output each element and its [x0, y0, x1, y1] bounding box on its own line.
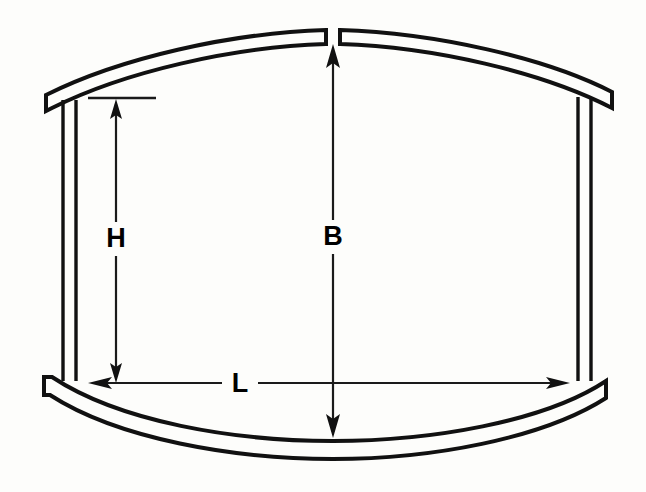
bottom-arc-band — [44, 377, 606, 459]
diagram-canvas: H B L — [0, 0, 646, 492]
top-arc-band-right — [340, 30, 612, 108]
height-label: H — [106, 223, 126, 253]
length-label: L — [232, 368, 249, 398]
bulge-label: B — [323, 221, 343, 251]
dimension-diagram: H B L — [0, 0, 646, 492]
